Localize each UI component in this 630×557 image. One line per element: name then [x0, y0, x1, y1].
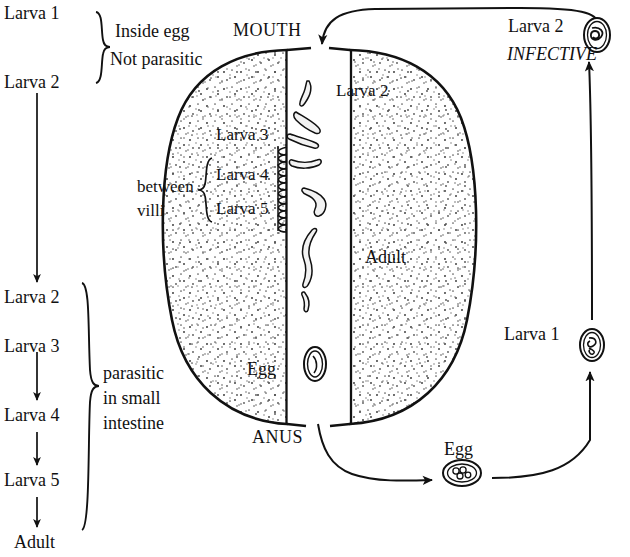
label-inside-egg: Inside egg — [115, 22, 189, 40]
label-anus: ANUS — [252, 428, 303, 446]
label-egg-in-body: Egg — [247, 360, 276, 378]
path-egg-to-larva1 — [492, 372, 590, 478]
label-left-larva2-top: Larva 2 — [4, 73, 59, 91]
label-left-adult: Adult — [14, 533, 55, 551]
larva1-egg — [580, 329, 604, 361]
label-intestine: intestine — [103, 414, 164, 432]
worm-larva-mid — [302, 188, 326, 216]
label-villi: villi — [137, 202, 164, 219]
mouth-opening-right-lip — [329, 48, 350, 50]
external-egg — [443, 460, 481, 486]
worm-larva-villi — [287, 134, 318, 148]
label-infective: INFECTIVE — [507, 45, 597, 63]
label-left-larva1: Larva 1 — [4, 4, 59, 22]
left-brace-bottom — [82, 283, 99, 530]
label-lumen-larva2: Larva 2 — [336, 82, 388, 99]
label-left-larva5: Larva 5 — [4, 471, 59, 489]
label-mouth: MOUTH — [233, 21, 302, 39]
mouth-opening-left-lip — [287, 48, 311, 50]
lumen-worms — [287, 81, 326, 312]
life-cycle-diagram: Larva 1 Larva 2 Inside egg Not parasitic… — [0, 0, 630, 557]
worm-larva-lower — [303, 229, 317, 288]
label-right-larva1: Larva 1 — [504, 325, 559, 343]
path-larva1-to-larva2-infective — [589, 62, 592, 320]
worm-larva-upper — [300, 81, 311, 106]
diagram-linework — [0, 0, 630, 557]
worm-larva-s — [294, 112, 320, 134]
anus-opening-left-lip — [287, 424, 306, 426]
lumen-egg — [304, 347, 326, 381]
label-infective-larva2: Larva 2 — [508, 17, 563, 35]
label-body-larva3: Larva 3 — [216, 126, 268, 143]
label-left-larva3: Larva 3 — [4, 337, 59, 355]
worm-larva-fragment — [302, 292, 309, 312]
left-brace-top — [96, 12, 110, 83]
label-body-larva5: Larva 5 — [216, 200, 268, 217]
path-anus-to-egg — [318, 424, 432, 481]
label-external-egg: Egg — [444, 440, 473, 458]
label-not-parasitic: Not parasitic — [110, 50, 202, 68]
label-between: between — [137, 178, 194, 195]
worm-larva-villi-2 — [289, 159, 321, 168]
label-body-larva4: Larva 4 — [216, 166, 268, 183]
anus-opening-right-lip — [330, 424, 350, 426]
host-body-right-tissue — [350, 50, 476, 424]
label-left-larva2-bottom: Larva 2 — [4, 288, 59, 306]
label-left-larva4: Larva 4 — [4, 406, 59, 424]
label-parasitic: parasitic — [103, 364, 164, 382]
label-adult-in-body: Adult — [365, 248, 406, 266]
label-in-small: in small — [103, 389, 161, 407]
